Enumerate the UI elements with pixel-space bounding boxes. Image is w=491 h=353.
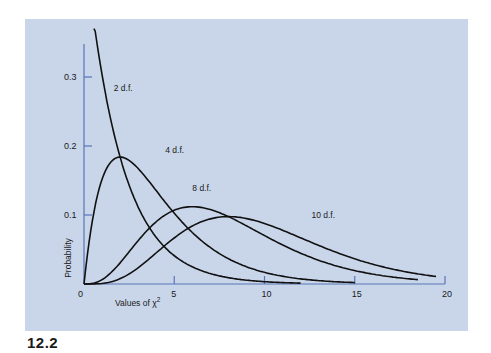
curve-4df xyxy=(84,157,355,284)
x-tick-label: 20 xyxy=(442,289,452,299)
chi-square-chart: 051015200.10.20.3 2 d.f.4 d.f.8 d.f.10 d… xyxy=(0,0,491,353)
y-tick-label: 0.3 xyxy=(64,72,77,82)
figure-number: 12.2 xyxy=(27,334,58,351)
x-axis-title: Values of χ2 xyxy=(115,296,161,308)
curve-label: 2 d.f. xyxy=(114,83,133,93)
curve-label: 4 d.f. xyxy=(165,145,184,155)
y-axis-title: Probability xyxy=(63,237,73,277)
labels: 2 d.f.4 d.f.8 d.f.10 d.f. xyxy=(114,83,335,221)
curve-label: 10 d.f. xyxy=(311,210,335,220)
x-tick-label: 15 xyxy=(352,289,362,299)
x-tick-label: 5 xyxy=(171,289,176,299)
y-tick-label: 0.2 xyxy=(64,141,77,151)
curve-label: 8 d.f. xyxy=(192,183,211,193)
curve-2df xyxy=(94,29,301,283)
x-tick-label: 10 xyxy=(262,289,272,299)
curve-10df xyxy=(84,217,436,284)
curve-8df xyxy=(84,207,418,284)
x-tick-label: 0 xyxy=(78,289,83,299)
y-tick-label: 0.1 xyxy=(64,210,77,220)
curves xyxy=(84,29,436,284)
